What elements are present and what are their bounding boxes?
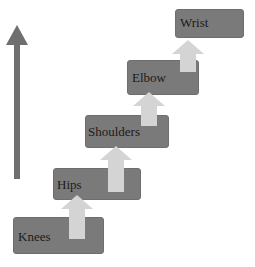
arrow-shaft [69,209,85,239]
up-arrow-icon [6,25,28,180]
connector-arrow-icon [133,92,165,126]
step-label-knees: Knees [18,229,51,245]
arrow-shaft [141,106,157,126]
step-label-hips: Hips [57,177,82,193]
arrow-shaft [180,54,196,72]
connector-arrow-icon [100,146,132,192]
arrow-shaft [14,45,20,179]
step-label-shoulders: Shoulders [88,124,140,140]
arrow-head [172,40,204,54]
arrow-head [100,146,132,160]
arrow-head [133,92,165,106]
connector-arrow-icon [61,195,93,239]
step-label-elbow: Elbow [132,70,166,86]
connector-arrow-icon [172,40,204,72]
arrow-shaft [108,160,124,192]
step-label-wrist: Wrist [180,15,208,31]
arrow-head [6,25,28,45]
arrow-head [61,195,93,209]
